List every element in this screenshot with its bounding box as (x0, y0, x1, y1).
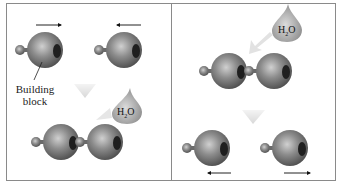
o-text: O (127, 106, 134, 117)
label-line-1: Building (10, 83, 60, 95)
water-label-left: H2O (117, 106, 134, 119)
label-line-2: block (10, 95, 60, 107)
panel-divider (171, 3, 172, 181)
water-label-right: H2O (278, 24, 295, 37)
building-block-label: Building block (10, 83, 60, 107)
o-text: O (288, 24, 295, 35)
